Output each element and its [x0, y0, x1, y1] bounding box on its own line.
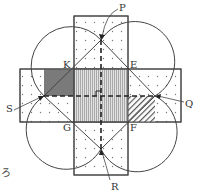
geometry-diagram: P K E S Q G F R ろ — [0, 0, 202, 196]
label-e: E — [130, 59, 137, 70]
label-r: R — [111, 181, 119, 192]
label-q: Q — [185, 98, 193, 109]
label-f: F — [130, 122, 137, 133]
label-g: G — [63, 122, 71, 133]
caption-fragment: ろ — [1, 167, 11, 178]
label-k: K — [63, 59, 71, 70]
label-s: S — [6, 103, 13, 114]
label-p: P — [119, 2, 126, 13]
